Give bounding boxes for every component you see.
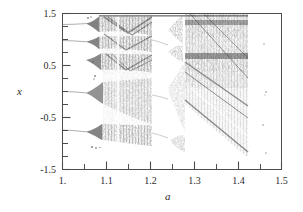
y-tick-label-2: 0.5: [22, 60, 56, 71]
x-tick-label-4: 1.3: [180, 175, 209, 186]
y-tick-label-1: 1.5: [22, 8, 56, 19]
y-tick-label-3: -0.5: [22, 112, 56, 123]
x-tick-label-3: 1.2: [136, 175, 165, 186]
chaotic-reentry: [168, 15, 185, 152]
wide-chaos-block: [185, 14, 248, 170]
attractor-point-cloud: [62, 14, 267, 170]
x-tick-label-1: 1.: [48, 175, 77, 186]
y-tick-label-4: -1.5: [22, 164, 56, 175]
x-tick-label-2: 1.1: [92, 175, 121, 186]
x-tick-label-6: 1.5: [267, 175, 296, 186]
x-tick-label-5: 1.4: [224, 175, 253, 186]
print-artifacts: [262, 43, 267, 154]
x-axis-ticks: [63, 162, 282, 170]
y-axis-label: x: [17, 85, 22, 97]
x-axis-label: a: [165, 190, 171, 202]
bifurcation-figure: 1.5 0.5 -0.5 -1.5 1. 1.1 1.2 1.3 1.4 1.5…: [0, 0, 303, 212]
